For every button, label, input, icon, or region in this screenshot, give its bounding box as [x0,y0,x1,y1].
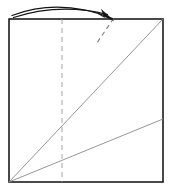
diagram-canvas: Paper folding step diagram [0,0,172,193]
fold-diagram-figure: Paper folding step diagram [0,0,172,193]
